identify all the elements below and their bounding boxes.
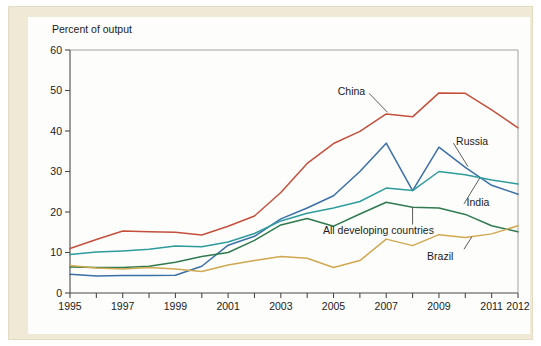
y-tick-label: 40 <box>50 125 62 137</box>
x-tick-label: 1999 <box>164 300 188 312</box>
annotation-leader-brazil <box>464 237 472 250</box>
y-tick-label: 0 <box>56 287 62 299</box>
x-tick-label: 1997 <box>111 300 135 312</box>
y-tick-label: 30 <box>50 165 62 177</box>
figure-frame: Percent of output01020304050601995199719… <box>8 6 533 340</box>
x-tick-label: 2009 <box>427 300 451 312</box>
series-line-china <box>70 93 518 249</box>
x-tick-label: 2005 <box>322 300 346 312</box>
series-label-all-developing-countries: All developing countries <box>323 224 434 236</box>
x-tick-label: 1995 <box>58 300 82 312</box>
series-label-russia: Russia <box>456 135 488 147</box>
x-tick-label: 2012 <box>506 300 530 312</box>
figure-root: Percent of output01020304050601995199719… <box>0 0 541 346</box>
series-label-brazil: Brazil <box>427 250 453 262</box>
x-tick-label: 2007 <box>375 300 399 312</box>
series-label-china: China <box>338 85 366 97</box>
x-tick-label: 2011 <box>480 300 503 312</box>
annotation-leader-china <box>369 93 387 112</box>
y-tick-label: 10 <box>50 246 62 258</box>
axis-title: Percent of output <box>52 23 132 35</box>
y-tick-label: 60 <box>50 44 62 56</box>
y-tick-label: 50 <box>50 84 62 96</box>
series-label-india: India <box>467 196 490 208</box>
x-tick-label: 2001 <box>216 300 240 312</box>
line-chart: Percent of output01020304050601995199719… <box>28 17 530 334</box>
figure-plate: Percent of output01020304050601995199719… <box>28 17 530 334</box>
y-tick-label: 20 <box>50 206 62 218</box>
x-tick-label: 2003 <box>269 300 293 312</box>
